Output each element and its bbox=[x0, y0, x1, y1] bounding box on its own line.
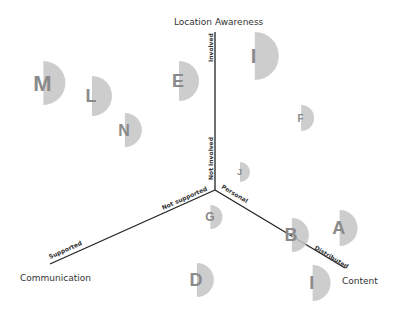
data-point-i: I bbox=[251, 32, 279, 80]
point-label: J bbox=[237, 167, 242, 177]
data-points: MLNEIFJGDBAI bbox=[33, 32, 357, 301]
data-point-l: L bbox=[86, 76, 113, 116]
content-high-label: Distributed bbox=[313, 244, 349, 270]
point-label: L bbox=[86, 86, 97, 106]
point-label: I bbox=[309, 273, 314, 293]
data-point-i: I bbox=[309, 265, 330, 301]
data-point-m: M bbox=[33, 61, 65, 105]
communication-axis-title: Communication bbox=[20, 273, 91, 283]
data-point-f: F bbox=[297, 105, 314, 131]
content-low-label: Personal bbox=[220, 183, 249, 204]
data-point-g: G bbox=[205, 205, 222, 229]
data-point-n: N bbox=[118, 113, 142, 147]
point-label: F bbox=[297, 113, 303, 124]
point-label: D bbox=[190, 270, 203, 290]
location-high-label: Involved bbox=[207, 33, 214, 62]
point-label: B bbox=[285, 225, 298, 245]
communication-axis bbox=[50, 190, 215, 264]
data-point-j: J bbox=[237, 162, 250, 182]
point-label: A bbox=[332, 218, 345, 238]
location-low-label: Not Involved bbox=[207, 137, 214, 180]
point-label: N bbox=[118, 122, 130, 139]
point-blob bbox=[255, 32, 279, 80]
point-label: G bbox=[205, 210, 214, 224]
point-label: I bbox=[251, 45, 257, 67]
communication-low-label: Not supported bbox=[161, 185, 209, 212]
point-label: M bbox=[33, 71, 51, 96]
content-axis-title: Content bbox=[342, 276, 378, 286]
data-point-d: D bbox=[190, 263, 214, 297]
data-point-e: E bbox=[172, 61, 199, 101]
data-point-a: A bbox=[332, 210, 357, 246]
location-axis-title: Location Awareness bbox=[174, 17, 264, 27]
point-blob bbox=[313, 265, 331, 301]
diagram-canvas: Location Awareness Communication Content… bbox=[0, 0, 399, 319]
data-point-b: B bbox=[285, 218, 309, 252]
point-label: E bbox=[172, 71, 184, 91]
